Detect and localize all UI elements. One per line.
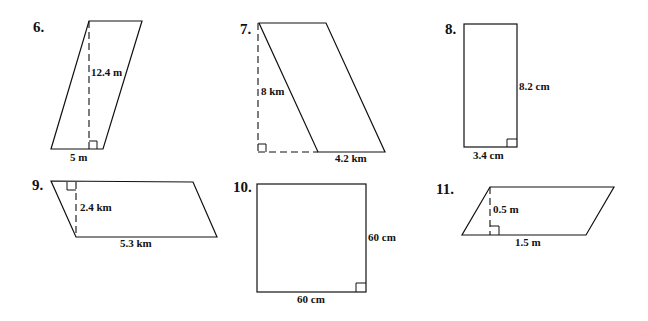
problem-7: 7. 8 km 4.2 km <box>240 21 385 164</box>
height-label: 0.5 m <box>493 203 519 215</box>
height-label: 8 km <box>261 85 285 97</box>
height-label: 8.2 cm <box>519 80 550 92</box>
base-label: 3.4 cm <box>473 149 504 161</box>
base-label: 1.5 m <box>515 236 541 248</box>
base-label: 60 cm <box>297 293 325 305</box>
rectangle-shape <box>464 24 517 147</box>
problem-10: 10. 60 cm 60 cm <box>233 179 396 305</box>
problem-11: 11. 0.5 m 1.5 m <box>436 181 614 248</box>
right-angle-marker <box>490 226 499 235</box>
base-label: 4.2 km <box>335 152 367 164</box>
right-angle-marker <box>89 141 97 149</box>
parallelogram-shape <box>51 21 142 149</box>
problem-number: 9. <box>32 177 44 193</box>
height-label: 2.4 km <box>80 201 112 213</box>
geometry-figures: 6. 12.4 m 5 m 7. 8 km 4.2 km 8. 8.2 cm 3… <box>0 0 648 321</box>
problem-6: 6. 12.4 m 5 m <box>33 19 142 163</box>
problem-number: 11. <box>436 181 454 197</box>
right-angle-marker <box>67 182 76 190</box>
height-label: 60 cm <box>368 231 396 243</box>
base-label: 5 m <box>70 151 87 163</box>
problem-number: 6. <box>33 19 45 35</box>
problem-8: 8. 8.2 cm 3.4 cm <box>445 21 550 161</box>
problem-9: 9. 2.4 km 5.3 km <box>32 177 217 249</box>
right-angle-marker <box>356 283 366 292</box>
problem-number: 10. <box>233 179 252 195</box>
right-angle-marker <box>258 144 266 152</box>
base-label: 5.3 km <box>120 237 152 249</box>
square-shape <box>257 184 366 292</box>
parallelogram-shape <box>462 187 614 235</box>
problem-number: 7. <box>240 21 252 37</box>
right-angle-marker <box>507 139 517 147</box>
height-label: 12.4 m <box>91 66 122 78</box>
problem-number: 8. <box>445 21 457 37</box>
